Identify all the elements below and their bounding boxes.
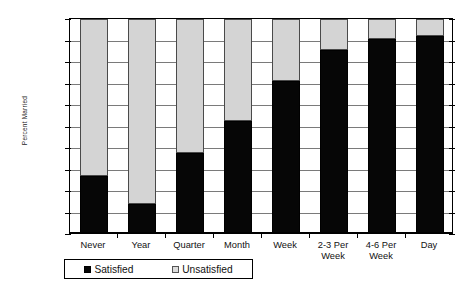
bar-stack: [272, 19, 299, 234]
y-axis-tick: [65, 148, 71, 149]
bar-segment-satisfied: [368, 39, 395, 234]
bar-segment-unsatisfied: [416, 19, 443, 36]
x-axis-tick: [357, 233, 358, 238]
x-axis-tick-label: Day: [405, 240, 453, 251]
bar-segment-satisfied: [272, 81, 299, 234]
x-axis-tick: [261, 233, 262, 238]
y-axis-tick: [65, 41, 71, 42]
y-axis-tick: [65, 62, 71, 63]
bar-segment-satisfied: [128, 204, 155, 234]
y-axis-tick: [65, 105, 71, 106]
y-axis-tick: [65, 191, 71, 192]
x-axis-tick-label: Quarter: [165, 240, 213, 251]
legend-item-satisfied: Satisfied: [84, 264, 133, 275]
x-axis-tick-label: 4-6 Per Week: [357, 240, 405, 262]
bar-segment-unsatisfied: [368, 19, 395, 39]
x-axis-tick-label: Never: [69, 240, 117, 251]
x-axis-tick: [309, 233, 310, 238]
x-axis-tick: [117, 233, 118, 238]
bar-stack: [416, 19, 443, 234]
x-axis-tick-label: 2-3 Per Week: [309, 240, 357, 262]
bar-stack: [80, 19, 107, 234]
plot-area: [69, 18, 453, 233]
bar-segment-unsatisfied: [80, 19, 107, 176]
x-axis-tick-label: Week: [261, 240, 309, 251]
x-axis-tick: [165, 233, 166, 238]
bar-stack: [368, 19, 395, 234]
y-axis-tick: [65, 234, 71, 235]
y-axis-tick-right: [449, 234, 455, 235]
bar-segment-unsatisfied: [272, 19, 299, 81]
x-axis-tick-label: Year: [117, 240, 165, 251]
legend-label-unsatisfied: Unsatisfied: [182, 264, 232, 275]
legend-label-satisfied: Satisfied: [94, 264, 133, 275]
y-axis-tick: [65, 213, 71, 214]
bar-segment-unsatisfied: [128, 19, 155, 204]
y-axis-tick: [65, 19, 71, 20]
x-axis-tick: [213, 233, 214, 238]
bar-segment-satisfied: [176, 153, 203, 234]
bar-stack: [128, 19, 155, 234]
bar-segment-satisfied: [320, 50, 347, 234]
bar-segment-satisfied: [416, 36, 443, 234]
empty-square-icon: [172, 266, 179, 273]
bar-group: [70, 19, 454, 234]
bar-segment-unsatisfied: [176, 19, 203, 153]
x-axis-tick: [405, 233, 406, 238]
bar-segment-unsatisfied: [224, 19, 251, 121]
y-axis-title: Percent Married: [21, 51, 28, 191]
bar-stack: [320, 19, 347, 234]
bar-segment-unsatisfied: [320, 19, 347, 50]
bar-stack: [176, 19, 203, 234]
filled-square-icon: [84, 266, 91, 273]
y-axis-tick: [65, 127, 71, 128]
y-axis-tick: [65, 170, 71, 171]
x-axis-tick-label: Month: [213, 240, 261, 251]
right-axis-line: [452, 18, 453, 233]
bar-segment-satisfied: [80, 176, 107, 234]
y-axis-tick: [65, 84, 71, 85]
legend: Satisfied Unsatisfied: [64, 259, 253, 279]
bar-stack: [224, 19, 251, 234]
legend-item-unsatisfied: Unsatisfied: [172, 264, 232, 275]
bar-segment-satisfied: [224, 121, 251, 234]
chart-figure: Percent Married 0%10%20%30%40%50%60%70%8…: [0, 0, 475, 287]
